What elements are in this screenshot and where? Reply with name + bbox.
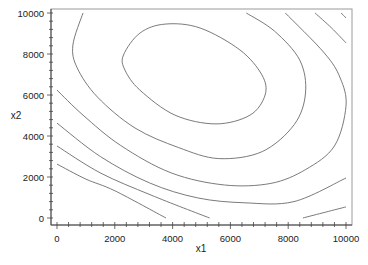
y-tick-label: 4000	[23, 131, 44, 142]
y-tick-label: 0	[39, 213, 44, 224]
x-tick-label: 0	[54, 233, 59, 244]
plot-frame	[51, 9, 352, 225]
x-axis: 0200040006000800010000	[51, 222, 359, 244]
y-tick-label: 2000	[23, 172, 44, 183]
y-axis: 0200040006000800010000	[18, 8, 53, 226]
x-tick-label: 10000	[333, 233, 359, 244]
x-tick-label: 4000	[162, 233, 183, 244]
y-tick-label: 6000	[23, 90, 44, 101]
x-tick-label: 2000	[104, 233, 125, 244]
contour-chart: 0200040006000800010000 02000400060008000…	[0, 0, 368, 265]
y-tick-label: 10000	[18, 8, 44, 19]
x-tick-label: 8000	[278, 233, 299, 244]
x-axis-label: x1	[196, 243, 207, 254]
x-tick-label: 6000	[220, 233, 241, 244]
y-tick-label: 8000	[23, 49, 44, 60]
y-axis-label: x2	[11, 110, 22, 121]
